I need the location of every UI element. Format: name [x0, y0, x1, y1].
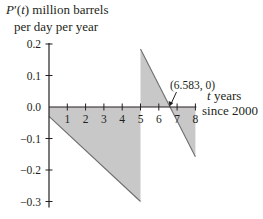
shaded-area-1 — [49, 107, 141, 202]
annotation-label: (6.583, 0) — [170, 79, 215, 92]
x-tick-label: 3 — [101, 113, 107, 125]
x-tick-label: 5 — [138, 113, 144, 125]
x-tick-label: 1 — [64, 113, 70, 125]
y-axis-label-line2: per day per year — [14, 19, 99, 34]
annotation-arrow — [171, 92, 177, 104]
y-tick-label: −0.1 — [20, 133, 41, 145]
y-tick-label: −0.2 — [20, 164, 41, 176]
x-axis-label-line2: since 2000 — [202, 103, 258, 118]
y-tick-label: 0.0 — [27, 101, 42, 113]
y-tick-label: 0.2 — [27, 38, 42, 50]
x-tick-label: 6 — [156, 113, 162, 125]
chart: 123456780.20.10.0−0.1−0.2−0.3 P′(t) mill… — [0, 0, 263, 219]
x-tick-label: 7 — [174, 113, 180, 125]
arrowhead-icon — [169, 101, 174, 107]
y-tick-label: 0.1 — [27, 70, 42, 82]
x-tick-label: 2 — [83, 113, 89, 125]
y-axis-label-line1: P′(t) million barrels — [5, 2, 109, 17]
shaded-areas — [49, 49, 195, 201]
x-tick-label: 4 — [119, 113, 125, 125]
x-tick-label: 8 — [193, 113, 199, 125]
y-tick-label: −0.3 — [20, 196, 41, 208]
